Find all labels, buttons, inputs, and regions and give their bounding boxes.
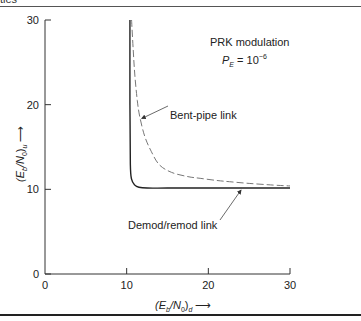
x-tick-label: 10: [121, 279, 133, 291]
demod-remod-arrow: [220, 190, 241, 220]
x-tick-label: 20: [202, 279, 214, 291]
subtitle-eq: = 10: [234, 54, 259, 66]
x-tick-label: 30: [284, 279, 296, 291]
annotation-bent-pipe: Bent-pipe link: [170, 109, 237, 121]
y-tick-label: 30: [27, 14, 39, 26]
y-tick-label: 0: [33, 268, 39, 280]
subtitle-exp: −6: [259, 53, 267, 60]
chart: 01020300102030 PRK modulation PE = 10−6 …: [0, 0, 361, 321]
y-tick-label: 10: [27, 183, 39, 195]
x-tick-label: 0: [42, 279, 48, 291]
annotation-demod-remod: Demod/remod link: [128, 219, 218, 231]
bent-pipe-arrow: [142, 106, 168, 119]
chart-subtitle: PE = 10−6: [222, 53, 267, 68]
annotations: [142, 106, 241, 220]
x-axis-label: (Eb/N0)d ⟶: [155, 299, 211, 313]
y-axis-label: (Eb/N0)u ⟶: [14, 126, 28, 182]
y-tick-label: 20: [27, 99, 39, 111]
chart-title: PRK modulation: [210, 36, 290, 48]
